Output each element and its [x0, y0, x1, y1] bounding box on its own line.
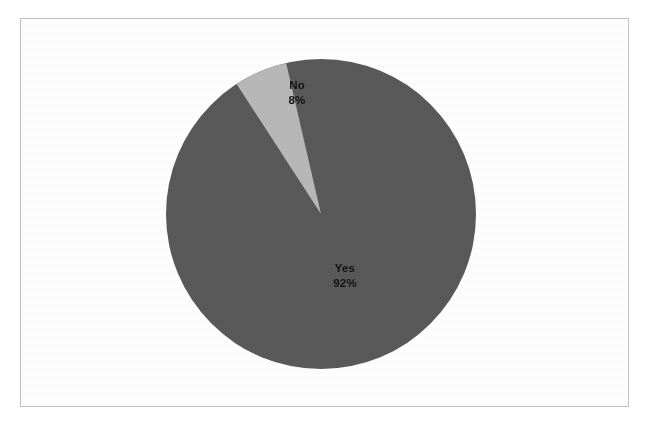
pie-label-no-value: 8% [268, 93, 326, 108]
pie-label-yes: Yes 92% [316, 261, 374, 291]
pie-label-no: No 8% [268, 78, 326, 108]
scanned-page: No 8% Yes 92% [0, 0, 648, 423]
pie-chart-svg [0, 0, 648, 423]
pie-chart: No 8% Yes 92% [0, 0, 648, 423]
pie-label-yes-value: 92% [316, 276, 374, 291]
pie-label-no-name: No [268, 78, 326, 93]
pie-label-yes-name: Yes [316, 261, 374, 276]
